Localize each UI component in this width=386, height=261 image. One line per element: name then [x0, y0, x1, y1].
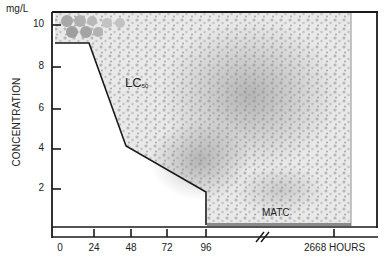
y-tick-10: 10	[28, 18, 44, 29]
y-tick-6: 6	[28, 102, 44, 113]
chart-area: mg/L CONCENTRATION 10 8 6 4 2 0 24 48 72…	[0, 0, 386, 261]
x-tick-0: 0	[45, 242, 75, 253]
y-unit-label: mg/L	[6, 3, 28, 14]
x-tick-72: 72	[152, 242, 182, 253]
y-axis-title: CONCENTRATION	[11, 77, 22, 166]
y-tick-4: 4	[28, 142, 44, 153]
y-tick-8: 8	[28, 60, 44, 71]
x-tick-96: 96	[191, 242, 221, 253]
y-tick-2: 2	[28, 182, 44, 193]
x-tick-48: 48	[116, 242, 146, 253]
x-tick-2668: 2668 HOURS	[304, 242, 365, 253]
matc-label: MATC	[262, 207, 290, 218]
y-axis-ticks	[52, 25, 61, 189]
lc50-label: LC50	[125, 75, 148, 90]
chart-svg	[0, 0, 386, 261]
toxic-zone-shading	[55, 13, 351, 226]
x-axis-ticks	[94, 229, 334, 237]
x-tick-24: 24	[79, 242, 109, 253]
